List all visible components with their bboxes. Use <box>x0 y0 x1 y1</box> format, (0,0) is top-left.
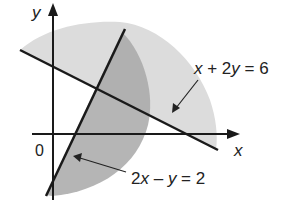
equation-label-line1: x + 2y = 6 <box>193 59 269 78</box>
inequality-graph: y x 0 x + 2y = 6 2x – y = 2 <box>0 0 293 218</box>
equation-label-line2: 2x – y = 2 <box>131 169 205 188</box>
x-axis-label: x <box>233 141 243 160</box>
y-axis-label: y <box>31 3 42 22</box>
origin-label: 0 <box>35 142 44 159</box>
x-axis-arrow-icon <box>227 129 240 139</box>
y-axis-arrow-icon <box>48 3 58 16</box>
